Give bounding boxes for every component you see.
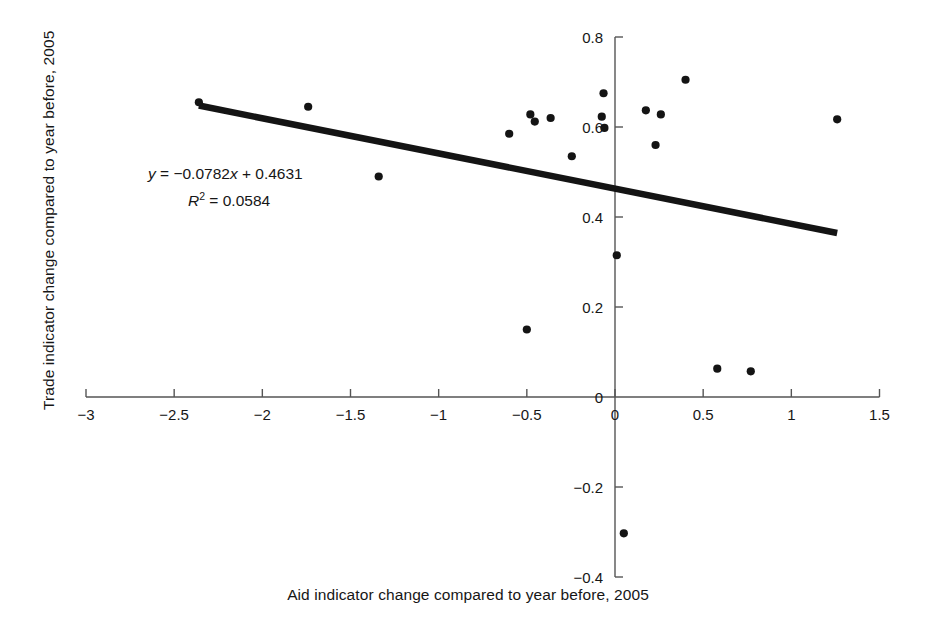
data-point <box>375 172 383 180</box>
data-point <box>657 110 665 118</box>
x-tick-label: −3 <box>77 406 94 423</box>
equation-x-variable: x <box>230 165 238 182</box>
y-tick-label: 0.6 <box>582 119 603 136</box>
data-point <box>526 110 534 118</box>
regression-equation-label: y = −0.0782x + 0.4631 <box>148 165 303 183</box>
data-point <box>651 141 659 149</box>
x-tick-label: 1 <box>787 406 795 423</box>
x-tick-label: −2 <box>254 406 271 423</box>
y-tick-label: 0.8 <box>582 29 603 46</box>
x-tick-label: −1 <box>430 406 447 423</box>
equation-y-variable: y <box>148 165 156 182</box>
x-tick-label: 1.5 <box>869 406 890 423</box>
data-point <box>531 118 539 126</box>
plot-canvas <box>0 0 936 620</box>
r-squared-variable: R <box>188 192 199 209</box>
scatter-plot-figure: Trade indicator change compared to year … <box>0 0 936 620</box>
y-tick-label: 0.2 <box>582 299 603 316</box>
data-point <box>195 98 203 106</box>
data-point <box>523 325 531 333</box>
axes-group <box>86 37 879 577</box>
data-point <box>599 89 607 97</box>
y-tick-label: 0.4 <box>582 209 603 226</box>
y-tick-label: −0.4 <box>573 569 603 586</box>
x-tick-label: 0.5 <box>693 406 714 423</box>
r-squared-label: R2 = 0.0584 <box>188 190 270 210</box>
data-point <box>304 103 312 111</box>
data-point <box>613 251 621 259</box>
equation-tail: + 0.4631 <box>238 165 303 182</box>
data-point <box>681 76 689 84</box>
data-point <box>713 365 721 373</box>
x-tick-label: −2.5 <box>159 406 189 423</box>
data-point <box>833 115 841 123</box>
equation-body: = −0.0782 <box>156 165 230 182</box>
data-points-group <box>195 76 842 538</box>
x-tick-label: −1.5 <box>336 406 366 423</box>
data-point <box>642 106 650 114</box>
data-point <box>505 130 513 138</box>
y-tick-label: −0.2 <box>573 479 603 496</box>
data-point <box>568 152 576 160</box>
data-point <box>747 367 755 375</box>
x-tick-label: 0 <box>611 406 619 423</box>
r-squared-value: = 0.0584 <box>205 192 270 209</box>
y-tick-label: 0 <box>595 389 603 406</box>
data-point <box>547 114 555 122</box>
x-tick-label: −0.5 <box>512 406 542 423</box>
data-point <box>620 529 628 537</box>
